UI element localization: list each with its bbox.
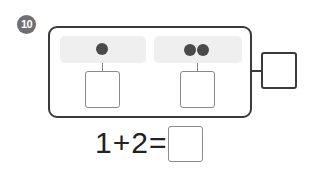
group-2-connector [197, 63, 198, 71]
problem-number-badge: 10 [17, 15, 36, 34]
total-connector [251, 70, 261, 72]
total-answer-box[interactable] [261, 52, 297, 89]
group-1-connector [102, 63, 103, 71]
counter-dot-icon [184, 44, 196, 56]
counter-dot-icon [197, 44, 209, 56]
group-1-answer-box[interactable] [85, 71, 120, 108]
counter-dot-icon [96, 43, 108, 55]
group-2-answer-box[interactable] [180, 71, 215, 108]
equation-text: 1+2= [95, 127, 167, 159]
equation-answer-box[interactable] [168, 126, 203, 162]
